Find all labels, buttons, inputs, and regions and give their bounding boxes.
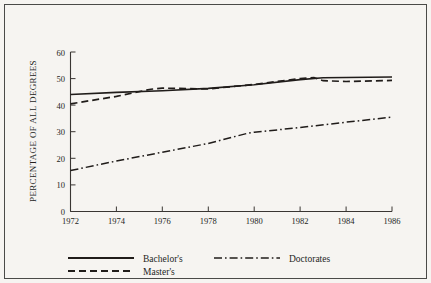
y-tick-marks bbox=[71, 52, 76, 212]
y-tick-label: 40 bbox=[57, 101, 66, 111]
y-tick-label: 30 bbox=[57, 127, 66, 137]
series-line-bachelors bbox=[71, 77, 393, 95]
x-tick-label: 1980 bbox=[246, 216, 263, 226]
legend-label-masters: Master's bbox=[143, 267, 175, 277]
x-tick-label: 1974 bbox=[108, 216, 126, 226]
y-tick-label: 50 bbox=[57, 74, 66, 84]
y-tick-label: 20 bbox=[57, 154, 66, 164]
legend: Bachelor's Master's Doctorates bbox=[68, 254, 330, 277]
chart-figure: 60 50 40 30 20 10 0 1972 1974 1976 1978 … bbox=[0, 0, 431, 283]
y-axis-title: PERCENTAGE OF ALL DEGREES bbox=[28, 60, 38, 202]
legend-label-bachelors: Bachelor's bbox=[143, 254, 183, 264]
x-tick-label: 1984 bbox=[338, 216, 356, 226]
y-tick-label: 60 bbox=[57, 48, 66, 58]
line-chart: 60 50 40 30 20 10 0 1972 1974 1976 1978 … bbox=[0, 0, 431, 283]
x-tick-label: 1972 bbox=[62, 216, 79, 226]
y-tick-label: 10 bbox=[57, 180, 66, 190]
x-tick-label: 1982 bbox=[292, 216, 309, 226]
series-line-doctorates bbox=[71, 117, 393, 170]
legend-label-doctorates: Doctorates bbox=[289, 254, 330, 264]
x-tick-marks bbox=[71, 207, 393, 212]
x-tick-label: 1976 bbox=[154, 216, 171, 226]
x-tick-label: 1986 bbox=[384, 216, 401, 226]
series-line-masters bbox=[71, 78, 393, 104]
x-tick-label: 1978 bbox=[200, 216, 217, 226]
